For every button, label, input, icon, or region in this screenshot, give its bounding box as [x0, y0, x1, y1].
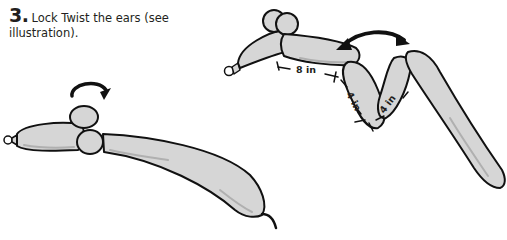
left-balloon-figure: [4, 83, 276, 228]
balloon-illustration: 8 in 4 in 4 in: [0, 0, 507, 240]
measurement-8in: 8 in: [296, 64, 316, 75]
right-balloon-figure: [225, 10, 505, 188]
